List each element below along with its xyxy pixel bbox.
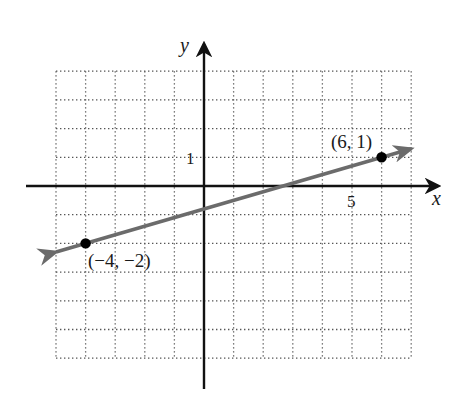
point-marker-b: [376, 152, 386, 162]
point-label-b: (6, 1): [331, 131, 372, 153]
point-label-a: (−4, −2): [88, 250, 151, 272]
grid-lines: [56, 71, 411, 358]
y-axis-label: y: [178, 34, 189, 57]
x-axis-label: x: [431, 187, 441, 209]
point-marker-a: [80, 238, 90, 248]
x-tick-label-5: 5: [347, 192, 356, 211]
y-tick-label-1: 1: [186, 149, 195, 168]
coordinate-graph: y x 5 1 (6, 1) (−4, −2): [0, 0, 466, 414]
